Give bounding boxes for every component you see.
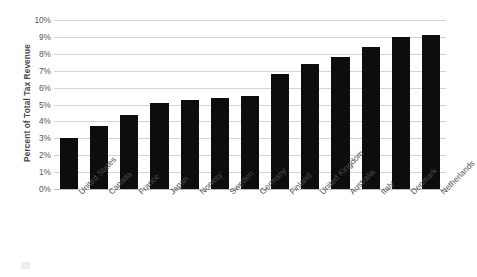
x-tick-label: France xyxy=(137,190,143,196)
y-axis-tick-labels: 10%9%8%7%6%5%4%3%2%1%0% xyxy=(20,20,51,189)
bar xyxy=(392,37,410,189)
y-tick-label: 5% xyxy=(20,100,51,110)
y-tick-label: 9% xyxy=(20,32,51,42)
x-tick-label: Japan xyxy=(168,190,174,196)
x-tick-label: United Kingdom xyxy=(318,190,324,196)
x-tick-label: Sweden xyxy=(228,190,234,196)
bar xyxy=(301,64,319,189)
y-tick-label: 3% xyxy=(20,133,51,143)
x-tick-label: Finland xyxy=(288,190,294,196)
x-tick-label: Canada xyxy=(107,190,113,196)
x-tick-label: Norway xyxy=(198,190,204,196)
x-tick-label: Australia xyxy=(348,190,354,196)
y-tick-label: 6% xyxy=(20,83,51,93)
y-tick-label: 10% xyxy=(20,15,51,25)
x-tick-label: Italy xyxy=(379,190,385,196)
y-tick-label: 1% xyxy=(20,167,51,177)
x-axis-tick-labels: United StatesCanadaFranceJapanNorwaySwed… xyxy=(54,190,446,275)
corner-artifact xyxy=(21,262,30,269)
x-tick-label: Germany xyxy=(258,190,264,196)
y-tick-label: 4% xyxy=(20,116,51,126)
y-tick-label: 2% xyxy=(20,150,51,160)
y-tick-label: 0% xyxy=(20,184,51,194)
bar xyxy=(60,138,78,189)
bar xyxy=(422,35,440,189)
x-tick-label: Netherlands xyxy=(439,190,445,196)
x-tick-label: United States xyxy=(77,190,83,196)
y-tick-label: 7% xyxy=(20,66,51,76)
x-tick-label: Denmark xyxy=(409,190,415,196)
y-tick-label: 8% xyxy=(20,49,51,59)
